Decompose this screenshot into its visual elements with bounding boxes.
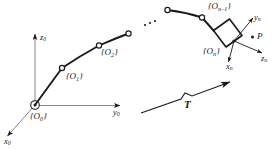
- point-p-label: P: [257, 32, 263, 41]
- transform-label: T: [184, 99, 191, 110]
- x-axis-base-label: x0: [4, 137, 11, 147]
- joint-marker-n1: [199, 15, 204, 20]
- chain-ellipsis-dots: [144, 20, 156, 26]
- frame-label-o0: {O0}: [30, 112, 47, 122]
- ee-origin-dot: [232, 39, 235, 42]
- frame-label-o1: {O1}: [66, 72, 83, 82]
- joint-markers: [59, 7, 204, 70]
- point-p-dot: [251, 36, 254, 39]
- manipulator-links: [35, 10, 214, 105]
- joint-marker-1: [59, 65, 64, 70]
- link-0-1: [35, 68, 62, 105]
- z-axis-ee-line: [234, 41, 262, 53]
- figure-canvas: z0 y0 x0 {O0} {O1} {O2} {On–1} {On} yn z…: [0, 0, 279, 149]
- link-n2-n1: [168, 10, 203, 18]
- link-2-3: [99, 34, 129, 46]
- x-axis-ee-label: xn: [226, 62, 233, 72]
- frame-label-on: {On}: [203, 47, 220, 57]
- z-axis-base-label: z0: [40, 33, 46, 43]
- frame-label-on-1: {On–1}: [208, 2, 231, 12]
- z-axis-ee-label: zn: [261, 54, 267, 64]
- joint-marker-3: [126, 31, 131, 36]
- kinematic-chain-svg: [0, 0, 279, 149]
- frame-label-o2: {O2}: [101, 48, 118, 58]
- y-axis-ee-label: yn: [254, 13, 261, 23]
- joint-marker-n2: [165, 7, 170, 12]
- link-1-2: [62, 46, 99, 69]
- y-axis-base-label: y0: [113, 108, 120, 118]
